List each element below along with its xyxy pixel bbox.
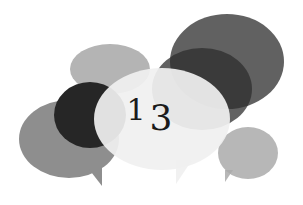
chapter-number: 13 [0, 92, 303, 128]
chapter-marker-figure: 13 [0, 0, 303, 205]
speech-bubble-left-tail [88, 168, 102, 186]
speech-bubble-right-tail [225, 170, 233, 182]
chapter-number-digit-1: 1 [127, 95, 150, 125]
speech-bubble-center-tail [176, 160, 192, 184]
chapter-number-digit-2: 3 [150, 100, 177, 136]
